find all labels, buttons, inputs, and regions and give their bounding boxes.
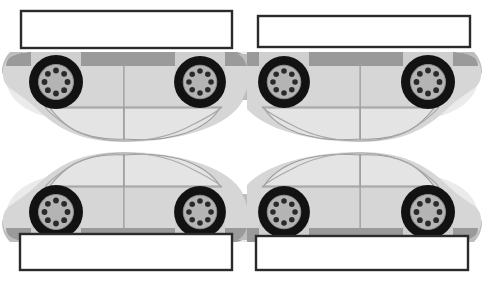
lower-car-upright bbox=[2, 152, 248, 242]
right-panel-cars bbox=[247, 52, 482, 242]
bottom-plate bbox=[256, 236, 468, 270]
right-panel bbox=[247, 0, 495, 294]
right-panel-canvas bbox=[247, 0, 495, 294]
figure-root bbox=[0, 0, 495, 294]
bottom-plate bbox=[20, 234, 232, 270]
left-panel-canvas bbox=[0, 0, 248, 294]
lower-car-front-wheel bbox=[401, 185, 455, 239]
top-plate bbox=[21, 11, 232, 48]
lower-car-rear-wheel bbox=[258, 186, 310, 238]
left-panel bbox=[0, 0, 248, 294]
upper-car-front-wheel bbox=[29, 55, 83, 109]
upper-car-front-wheel bbox=[401, 55, 455, 109]
upper-car-inverted bbox=[247, 52, 482, 142]
upper-car-rear-wheel bbox=[258, 56, 310, 108]
lower-car-rear-wheel bbox=[174, 186, 226, 238]
upper-car-rear-wheel bbox=[174, 56, 226, 108]
lower-car-upright bbox=[247, 152, 482, 242]
lower-car-front-wheel bbox=[29, 185, 83, 239]
top-plate bbox=[258, 16, 470, 47]
upper-car-inverted bbox=[2, 52, 248, 142]
